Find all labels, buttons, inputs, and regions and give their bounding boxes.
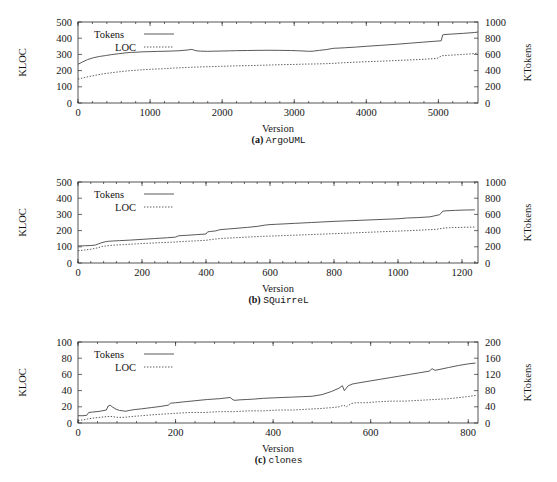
x-axis-title: Version <box>262 283 295 292</box>
y-tick-label: 200 <box>56 65 72 76</box>
caption-b-name: SQuirreL <box>263 295 308 306</box>
y-tick-label: 0 <box>67 258 72 269</box>
plot-frame <box>78 182 478 263</box>
y2-tick-label: 80 <box>485 385 496 396</box>
x-tick-label: 3000 <box>284 107 305 118</box>
x-tick-label: 0 <box>75 107 80 118</box>
y-axis-title: KLOC <box>17 368 28 397</box>
x-tick-label: 200 <box>168 427 184 438</box>
y-tick-label: 40 <box>62 385 73 396</box>
y-tick-label: 400 <box>56 33 72 44</box>
x-tick-label: 0 <box>75 427 80 438</box>
y2-tick-label: 0 <box>485 418 490 429</box>
legend-label-loc: LOC <box>115 362 136 373</box>
caption-b-label: (b) <box>248 294 260 305</box>
y-tick-label: 100 <box>56 81 72 92</box>
y2-tick-label: 400 <box>485 65 501 76</box>
chart-svg-a: 0100020003000400050000100200300400500020… <box>0 0 557 132</box>
y2-tick-label: 200 <box>485 241 501 252</box>
y-tick-label: 500 <box>56 17 72 28</box>
caption-a: (a) ArgoUML <box>0 134 557 146</box>
y2-tick-label: 800 <box>485 193 501 204</box>
series-line-loc <box>78 53 478 79</box>
y2-tick-label: 0 <box>485 258 490 269</box>
chart-panel-c: 020040060080002040608010004080120160200K… <box>0 320 557 480</box>
y2-tick-label: 0 <box>485 98 490 109</box>
y-tick-label: 0 <box>67 418 72 429</box>
x-tick-label: 1200 <box>452 267 473 278</box>
y-tick-label: 500 <box>56 177 72 188</box>
y2-tick-label: 40 <box>485 401 496 412</box>
y-tick-label: 100 <box>56 241 72 252</box>
series-line-tokens <box>78 210 475 246</box>
chart-svg-b: 0200400600800100012000100200300400500020… <box>0 160 557 292</box>
y-axis-title: KLOC <box>17 48 28 77</box>
x-tick-label: 5000 <box>428 107 449 118</box>
y2-axis-title: KTokens <box>522 204 533 242</box>
y2-tick-label: 800 <box>485 33 501 44</box>
legend-label-tokens: Tokens <box>94 189 124 200</box>
y2-axis-title: KTokens <box>522 44 533 82</box>
chart-svg-c: 020040060080002040608010004080120160200K… <box>0 320 557 452</box>
x-tick-label: 2000 <box>212 107 233 118</box>
x-tick-label: 4000 <box>356 107 377 118</box>
chart-panel-a: 0100020003000400050000100200300400500020… <box>0 0 557 160</box>
caption-c-name: clones <box>268 455 302 466</box>
y2-tick-label: 400 <box>485 225 501 236</box>
y2-tick-label: 200 <box>485 337 501 348</box>
y2-axis-title: KTokens <box>522 364 533 402</box>
x-tick-label: 200 <box>134 267 150 278</box>
x-axis-title: Version <box>262 123 295 132</box>
y-tick-label: 0 <box>67 98 72 109</box>
y2-tick-label: 1000 <box>485 177 506 188</box>
y-tick-label: 100 <box>56 337 72 348</box>
series-line-loc <box>78 395 476 420</box>
legend-label-loc: LOC <box>115 202 136 213</box>
y-tick-label: 60 <box>62 369 73 380</box>
x-tick-label: 800 <box>326 267 342 278</box>
caption-c-label: (c) <box>255 454 266 465</box>
x-tick-label: 600 <box>363 427 379 438</box>
y2-tick-label: 200 <box>485 81 501 92</box>
y2-tick-label: 600 <box>485 49 501 60</box>
plot-frame <box>78 22 478 103</box>
caption-a-name: ArgoUML <box>266 135 306 146</box>
y-tick-label: 20 <box>62 401 73 412</box>
series-line-tokens <box>78 363 476 416</box>
caption-a-label: (a) <box>252 134 264 145</box>
caption-b: (b) SQuirreL <box>0 294 557 306</box>
y-tick-label: 300 <box>56 49 72 60</box>
y2-tick-label: 600 <box>485 209 501 220</box>
series-line-tokens <box>78 32 478 64</box>
series-line-loc <box>78 227 475 251</box>
x-tick-label: 800 <box>460 427 476 438</box>
x-tick-label: 400 <box>265 427 281 438</box>
x-tick-label: 1000 <box>140 107 161 118</box>
y2-tick-label: 1000 <box>485 17 506 28</box>
plot-frame <box>78 342 478 423</box>
legend-label-tokens: Tokens <box>94 349 124 360</box>
y-axis-title: KLOC <box>17 208 28 237</box>
y-tick-label: 300 <box>56 209 72 220</box>
x-tick-label: 400 <box>198 267 214 278</box>
x-tick-label: 600 <box>262 267 278 278</box>
x-tick-label: 0 <box>75 267 80 278</box>
y2-tick-label: 160 <box>485 353 501 364</box>
figure-page: 0100020003000400050000100200300400500020… <box>0 0 557 482</box>
chart-panel-b: 0200400600800100012000100200300400500020… <box>0 160 557 320</box>
x-tick-label: 1000 <box>388 267 409 278</box>
x-axis-title: Version <box>262 443 295 452</box>
caption-c: (c) clones <box>0 454 557 466</box>
y-tick-label: 80 <box>62 353 73 364</box>
y-tick-label: 400 <box>56 193 72 204</box>
legend-label-tokens: Tokens <box>94 29 124 40</box>
y2-tick-label: 120 <box>485 369 501 380</box>
legend-label-loc: LOC <box>115 42 136 53</box>
y-tick-label: 200 <box>56 225 72 236</box>
